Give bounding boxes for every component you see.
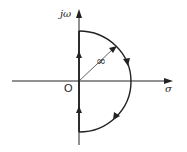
arrow-up-lower-icon — [76, 106, 82, 113]
jw-axis-arrowhead — [76, 9, 82, 18]
arrow-up-upper-icon — [76, 51, 82, 58]
jw-axis-label: jω — [60, 9, 71, 19]
origin-label: O — [64, 83, 73, 94]
nyquist-diagram — [0, 0, 187, 152]
sigma-axis-label: σ — [165, 84, 172, 94]
radius-infinity-label: ∞ — [96, 55, 106, 67]
